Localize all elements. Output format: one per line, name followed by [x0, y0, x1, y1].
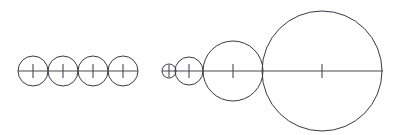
equal-circles-group	[18, 56, 138, 86]
doubling-circles-group	[162, 11, 383, 131]
circles-diagram	[0, 0, 395, 135]
diagram-groups	[18, 11, 383, 131]
figure-canvas	[0, 0, 395, 135]
